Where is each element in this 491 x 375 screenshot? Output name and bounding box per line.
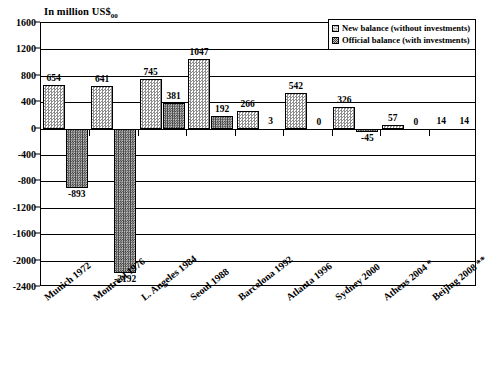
y-axis-tick-mark [35,206,40,207]
y-axis-tick-label: 800 [0,69,36,80]
y-axis-tick-mark [35,101,40,102]
y-axis-tick-label: -800 [0,175,36,186]
y-axis-tick-label: -2000 [0,254,36,265]
y-axis-tick-mark [35,127,40,128]
chart-container: In million US$00 654-893641-219274538110… [0,0,491,375]
legend-label-new-balance: New balance (without investments) [342,22,470,34]
y-axis-tick-mark [35,48,40,49]
y-axis-tick-mark [35,259,40,260]
y-axis-tick-mark [35,233,40,234]
legend-swatch-icon-new-balance [332,25,339,32]
y-axis-title: In million US$00 [44,6,118,17]
chart-legend: New balance (without investments) Offici… [328,19,476,50]
y-axis-tick-label: 0 [0,122,36,133]
y-axis-tick-label: -1600 [0,228,36,239]
y-axis-title-subscript: 00 [111,12,118,20]
y-axis-tick-label: -400 [0,149,36,160]
y-axis-title-text: In million US$ [44,6,111,17]
y-axis-tick-mark [35,22,40,23]
y-axis-tick-label: 1600 [0,17,36,28]
y-axis: 160012008004000-400-800-1200-1600-2000-2… [0,22,491,286]
y-axis-tick-label: -1200 [0,201,36,212]
y-axis-tick-mark [35,286,40,287]
y-axis-tick-label: -2400 [0,281,36,292]
y-axis-tick-label: 1200 [0,43,36,54]
y-axis-tick-label: 400 [0,96,36,107]
legend-swatch-icon-official-balance [332,37,339,44]
legend-label-official-balance: Official balance (with investments) [342,34,470,46]
y-axis-tick-mark [35,180,40,181]
y-axis-tick-mark [35,154,40,155]
y-axis-tick-mark [35,74,40,75]
legend-item-new-balance: New balance (without investments) [332,22,472,34]
legend-item-official-balance: Official balance (with investments) [332,34,472,46]
